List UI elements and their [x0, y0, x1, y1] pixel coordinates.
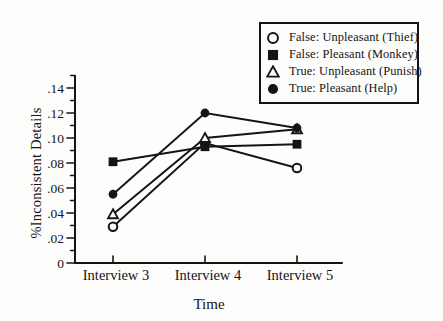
- series-markers-0: [109, 139, 302, 231]
- open-circle-marker: [293, 164, 302, 173]
- x-category-label: Interview 4: [175, 267, 242, 283]
- series-markers-3: [109, 109, 302, 199]
- filled-square-icon: [266, 48, 280, 62]
- y-tick-label: .12: [47, 106, 64, 121]
- y-tick-label: .02: [47, 231, 64, 246]
- filled-square-marker: [268, 49, 278, 59]
- series-line-0: [113, 143, 297, 227]
- x-category-label: Interview 3: [83, 267, 149, 283]
- filled-circle-marker: [201, 109, 210, 118]
- legend-label: False: Pleasant (Monkey): [289, 48, 418, 60]
- series-line-3: [113, 113, 297, 194]
- figure: 0.02.04.06.08.10.12.14Interview 3Intervi…: [0, 0, 443, 321]
- legend-label: False: Unpleasant (Thief): [289, 31, 418, 43]
- open-circle-marker: [268, 33, 278, 43]
- filled-circle-marker: [293, 124, 302, 133]
- y-tick-label: .04: [47, 206, 64, 221]
- y-axis-title: %Inconsistent Details: [28, 73, 48, 273]
- legend-label: True: Unpleasant (Punish): [289, 65, 422, 77]
- open-triangle-marker: [200, 133, 210, 142]
- open-circle-marker: [109, 222, 118, 231]
- legend-label: True: Pleasant (Help): [289, 82, 397, 94]
- legend: False: Unpleasant (Thief) False: Pleasan…: [259, 22, 419, 104]
- filled-circle-marker: [109, 190, 118, 199]
- open-triangle-icon: [266, 65, 280, 79]
- filled-circle-marker: [268, 83, 278, 93]
- x-axis-title: Time: [149, 296, 269, 313]
- legend-item-help: True: Pleasant (Help): [266, 82, 415, 96]
- x-category-label: Interview 5: [267, 267, 333, 283]
- filled-circle-icon: [266, 82, 280, 96]
- legend-item-thief: False: Unpleasant (Thief): [266, 31, 415, 45]
- y-tick-label: .06: [47, 181, 64, 196]
- filled-square-marker: [201, 142, 210, 151]
- filled-square-marker: [109, 157, 118, 166]
- open-triangle-marker: [267, 66, 279, 76]
- legend-item-monkey: False: Pleasant (Monkey): [266, 48, 415, 62]
- open-circle-icon: [266, 31, 280, 45]
- filled-square-marker: [293, 140, 302, 149]
- y-tick-label: .08: [47, 156, 64, 171]
- y-tick-label: .14: [47, 81, 64, 96]
- y-tick-label: .10: [47, 131, 64, 146]
- y-tick-label: 0: [57, 256, 64, 271]
- legend-item-punish: True: Unpleasant (Punish): [266, 65, 415, 79]
